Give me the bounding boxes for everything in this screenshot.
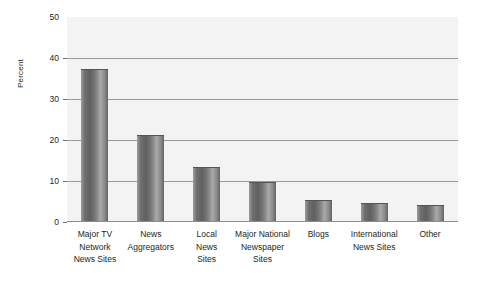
bar xyxy=(417,205,444,221)
bar xyxy=(81,69,108,221)
y-tick-label-10: 10 xyxy=(0,176,59,186)
bar xyxy=(249,182,276,221)
y-tick-label-0: 0 xyxy=(0,217,59,227)
bar xyxy=(305,200,332,221)
y-tick-label-40: 40 xyxy=(0,53,59,63)
y-tick-label-20: 20 xyxy=(0,135,59,145)
y-tick-label-50: 50 xyxy=(0,12,59,22)
y-axis-title-label: Percent xyxy=(16,59,25,88)
x-axis-label: Other xyxy=(390,228,470,241)
bar xyxy=(137,135,164,221)
y-tick-label-30: 30 xyxy=(0,94,59,104)
x-axis-labels: Major TV Network News SitesNews Aggregat… xyxy=(67,228,458,286)
bar xyxy=(193,167,220,221)
bars-layer xyxy=(67,17,458,222)
y-tick-mark-0 xyxy=(63,222,67,223)
bar-chart: Percent 01020304050 Major TV Network New… xyxy=(0,0,483,287)
plot-area xyxy=(67,17,458,222)
bar xyxy=(361,203,388,221)
